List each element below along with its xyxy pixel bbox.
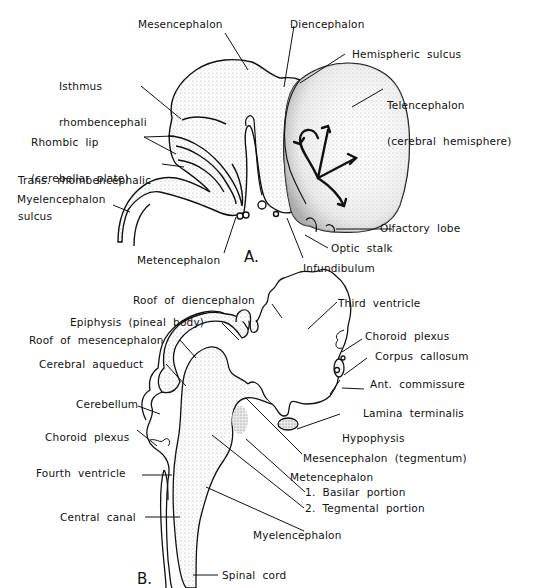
label-central-canal: Central canal bbox=[60, 511, 136, 523]
label-corpus-callosum: Corpus callosum bbox=[375, 350, 469, 362]
label-roof-of-diencephalon: Roof of diencephalon bbox=[133, 294, 255, 306]
label-lamina-terminalis: Lamina terminalis bbox=[363, 407, 464, 419]
label-tegmental-portion: 2. Tegmental portion bbox=[305, 502, 425, 514]
label-mesencephalon: Mesencephalon bbox=[138, 18, 223, 30]
label-epiphysis: Epiphysis (pineal body) bbox=[70, 316, 204, 328]
label-cerebellum: Cerebellum bbox=[76, 398, 138, 410]
label-trans-line1: Trans. rhombencephalic bbox=[18, 174, 151, 186]
label-ant-commissure: Ant. commissure bbox=[370, 378, 465, 390]
panel-a-drawing bbox=[113, 26, 410, 258]
label-olfactory-lobe: Olfactory lobe bbox=[380, 222, 460, 234]
label-third-ventricle: Third ventricle bbox=[338, 297, 421, 309]
label-basilar-portion: 1. Basilar portion bbox=[305, 486, 406, 498]
label-choroid-plexus-upper: Choroid plexus bbox=[365, 330, 449, 342]
label-isthmus-line1: Isthmus bbox=[59, 80, 147, 92]
label-telencephalon-line1: Telencephalon bbox=[387, 99, 511, 111]
label-cerebral-aqueduct: Cerebral aqueduct bbox=[39, 358, 143, 370]
label-infundibulum: Infundibulum bbox=[303, 262, 375, 274]
label-fourth-ventricle: Fourth ventricle bbox=[36, 467, 126, 479]
label-hemispheric-sulcus: Hemispheric sulcus bbox=[352, 48, 461, 60]
label-trans-rhombencephalic-sulcus: Trans. rhombencephalic sulcus bbox=[18, 150, 151, 234]
panel-b-marker: B. bbox=[137, 570, 152, 588]
label-spinal-cord: Spinal cord bbox=[222, 569, 286, 581]
label-myelencephalon-b: Myelencephalon bbox=[253, 529, 342, 541]
label-mesencephalon-tegmentum: Mesencephalon (tegmentum) bbox=[303, 452, 467, 464]
label-metencephalon-b: Metencephalon bbox=[290, 471, 373, 483]
label-telencephalon-line2: (cerebral hemisphere) bbox=[387, 135, 511, 147]
label-rhombic-lip-line1: Rhombic lip bbox=[31, 136, 129, 148]
label-diencephalon: Diencephalon bbox=[290, 18, 365, 30]
label-choroid-plexus-lower: Choroid plexus bbox=[45, 431, 129, 443]
label-trans-line2: sulcus bbox=[18, 210, 151, 222]
label-hypophysis: Hypophysis bbox=[342, 432, 405, 444]
label-metencephalon-a: Metencephalon bbox=[137, 254, 220, 266]
label-myelencephalon-a: Myelencephalon bbox=[17, 193, 106, 205]
label-telencephalon: Telencephalon (cerebral hemisphere) bbox=[387, 75, 511, 159]
label-roof-of-mesencephalon: Roof of mesencephalon bbox=[29, 334, 164, 346]
label-optic-stalk: Optic stalk bbox=[331, 242, 393, 254]
panel-a-marker: A. bbox=[244, 248, 259, 266]
